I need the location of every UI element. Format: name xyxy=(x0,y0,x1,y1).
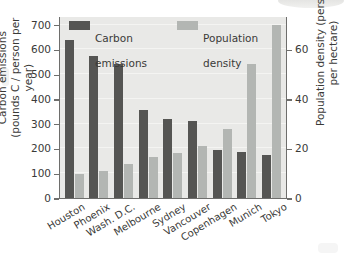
legend-item-population-density: Population density xyxy=(177,19,258,69)
legend-item-carbon-emissions: Carbon emissions xyxy=(69,19,147,69)
right-axis-tick xyxy=(287,99,292,100)
left-axis-ticks: 0100200300400500600700 xyxy=(0,17,59,199)
bar-carbon-emissions xyxy=(213,150,222,198)
right-axis-tick-label: 20 xyxy=(295,142,308,154)
bar-carbon-emissions xyxy=(237,152,246,198)
left-axis-tick-label: 0 xyxy=(44,192,51,204)
legend-label-line1: Carbon xyxy=(95,32,133,44)
chart-legend: Carbon emissions Population density xyxy=(69,19,258,69)
bar-population-density xyxy=(247,64,256,198)
legend-label-population-density: Population density xyxy=(203,19,258,69)
right-axis-tick-label: 40 xyxy=(295,93,308,105)
left-axis-tick-label: 400 xyxy=(31,93,51,105)
bar-carbon-emissions xyxy=(262,155,271,198)
left-axis-tick-label: 700 xyxy=(31,19,51,31)
bar-population-density xyxy=(223,129,232,198)
x-axis-label: Tokyo xyxy=(259,201,289,225)
bar-carbon-emissions xyxy=(139,110,148,198)
right-axis-tick xyxy=(287,198,292,199)
bar-carbon-emissions xyxy=(163,119,172,198)
right-axis-tick-label: 0 xyxy=(295,192,302,204)
bar-carbon-emissions xyxy=(89,56,98,198)
bar-population-density xyxy=(75,174,84,198)
right-axis-tick xyxy=(287,50,292,51)
legend-label-line2: emissions xyxy=(95,57,147,69)
bar-group xyxy=(262,17,281,198)
legend-label-line2: density xyxy=(203,57,242,69)
right-axis-tick-label: 60 xyxy=(295,43,308,55)
scan-artifact-bottom xyxy=(318,243,338,253)
bar-population-density xyxy=(124,164,133,198)
right-axis-tick xyxy=(287,149,292,150)
right-axis-ticks: 0204060 xyxy=(287,17,350,199)
legend-label-carbon-emissions: Carbon emissions xyxy=(95,19,147,69)
bar-population-density xyxy=(198,146,207,198)
x-axis-category-labels: HoustonPhoenixWash. D.C.MelbourneSydneyV… xyxy=(59,201,287,257)
legend-swatch-icon-carbon-emissions xyxy=(69,21,90,30)
left-axis-tick-label: 100 xyxy=(31,167,51,179)
bar-carbon-emissions xyxy=(114,64,123,198)
left-axis-tick-label: 300 xyxy=(31,118,51,130)
left-axis-tick-label: 200 xyxy=(31,142,51,154)
bar-population-density xyxy=(149,157,158,198)
left-axis-tick-label: 500 xyxy=(31,68,51,80)
bar-carbon-emissions xyxy=(188,121,197,198)
bar-population-density xyxy=(272,25,281,198)
left-axis-tick-label: 600 xyxy=(31,43,51,55)
chart-figure: Carbon emissions (pounds C / person per … xyxy=(0,0,350,259)
legend-swatch-icon-population-density xyxy=(177,21,198,30)
legend-label-line1: Population xyxy=(203,32,258,44)
bar-population-density xyxy=(173,153,182,198)
bar-population-density xyxy=(99,171,108,198)
